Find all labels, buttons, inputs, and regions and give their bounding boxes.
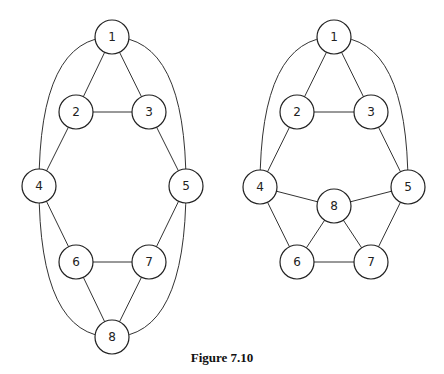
node-label: 2 (293, 105, 301, 119)
node-label: 4 (35, 179, 43, 193)
node-2: 2 (59, 95, 93, 129)
node-7: 7 (132, 245, 166, 279)
node-4: 4 (243, 170, 277, 204)
node-4: 4 (22, 169, 56, 203)
node-label: 1 (108, 30, 116, 44)
node-label: 1 (330, 30, 338, 44)
right-graph: 12345867 (243, 20, 425, 279)
node-5: 5 (391, 170, 425, 204)
node-label: 6 (72, 255, 80, 269)
node-label: 8 (108, 330, 116, 344)
node-label: 3 (145, 105, 153, 119)
node-7: 7 (354, 245, 388, 279)
node-3: 3 (354, 95, 388, 129)
node-1: 1 (95, 20, 129, 54)
node-6: 6 (280, 245, 314, 279)
node-label: 6 (293, 255, 301, 269)
node-5: 5 (169, 169, 203, 203)
node-2: 2 (280, 95, 314, 129)
node-6: 6 (59, 245, 93, 279)
node-label: 7 (367, 255, 375, 269)
figure-caption: Figure 7.10 (0, 350, 444, 366)
node-label: 3 (367, 105, 375, 119)
figure-canvas: 12345678 12345867 (0, 0, 444, 374)
node-label: 7 (145, 255, 153, 269)
node-8: 8 (317, 189, 351, 223)
node-label: 2 (72, 105, 80, 119)
node-label: 5 (404, 180, 412, 194)
node-label: 8 (330, 199, 338, 213)
node-label: 5 (182, 179, 190, 193)
node-3: 3 (132, 95, 166, 129)
node-8: 8 (95, 320, 129, 354)
left-graph: 12345678 (22, 20, 203, 354)
node-1: 1 (317, 20, 351, 54)
node-label: 4 (256, 180, 264, 194)
edges (39, 37, 186, 337)
edges (260, 37, 408, 262)
